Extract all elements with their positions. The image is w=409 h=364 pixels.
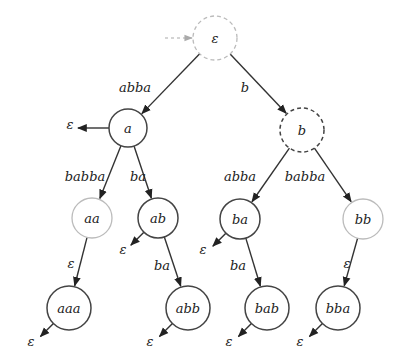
state-node-b: b bbox=[280, 108, 324, 152]
state-label: b bbox=[298, 123, 306, 138]
state-label: aa bbox=[84, 211, 100, 226]
output-label: ε bbox=[28, 334, 35, 349]
state-node-aa: aa bbox=[72, 198, 112, 238]
output-arrow-aaa bbox=[40, 324, 53, 337]
state-node-bab: bab bbox=[245, 286, 289, 330]
output-arrow-bab bbox=[238, 324, 251, 337]
state-label: a bbox=[124, 121, 132, 136]
edge-label: b bbox=[241, 80, 249, 95]
edge-label: babba bbox=[65, 169, 105, 184]
edge-ba-bab bbox=[246, 238, 261, 286]
state-node-bba: bba bbox=[316, 286, 360, 330]
state-node-abb: abb bbox=[166, 286, 210, 330]
edge-aa-aaa bbox=[75, 237, 87, 285]
state-node-a: a bbox=[109, 109, 147, 147]
state-node-bb: bb bbox=[343, 199, 383, 239]
edge-label: ε bbox=[68, 256, 75, 271]
output-arrow-ba bbox=[213, 233, 226, 246]
prefix-tree-diagram: εabaaabbabbaaaabbbabbba abbabbabbabaabba… bbox=[0, 0, 409, 364]
output-label: ε bbox=[297, 334, 304, 349]
state-label: aaa bbox=[57, 301, 80, 316]
output-label: ε bbox=[147, 334, 154, 349]
state-label: ab bbox=[150, 211, 166, 226]
edge-label: ε bbox=[344, 256, 351, 271]
edge-label: abba bbox=[119, 80, 151, 95]
state-label: abb bbox=[176, 301, 200, 316]
output-label: ε bbox=[226, 334, 233, 349]
output-arrow-bba bbox=[309, 324, 322, 337]
output-arrow-abb bbox=[159, 324, 172, 337]
edge-label: abba bbox=[224, 169, 256, 184]
state-node-eps: ε bbox=[193, 16, 237, 60]
edge-label: ba bbox=[130, 169, 146, 184]
state-node-ab: ab bbox=[138, 198, 178, 238]
state-label: bab bbox=[255, 301, 279, 316]
edge-eps-b bbox=[230, 54, 286, 113]
state-label: bb bbox=[355, 212, 372, 227]
state-node-aaa: aaa bbox=[47, 286, 91, 330]
output-arrow-ab bbox=[131, 232, 144, 245]
edge-label: ba bbox=[154, 258, 170, 273]
edge-label: ba bbox=[230, 258, 246, 273]
edge-label: babba bbox=[285, 169, 325, 184]
output-label: ε bbox=[67, 117, 74, 132]
state-node-ba: ba bbox=[220, 199, 260, 239]
state-label: ba bbox=[232, 212, 248, 227]
state-label: bba bbox=[326, 301, 350, 316]
state-label: ε bbox=[212, 31, 219, 46]
output-label: ε bbox=[120, 242, 127, 257]
output-label: ε bbox=[200, 242, 207, 257]
